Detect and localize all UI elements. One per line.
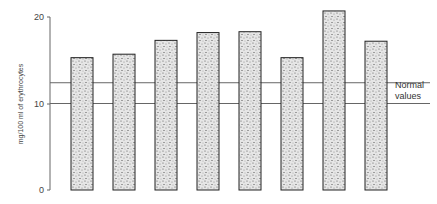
- bar-4: [197, 33, 219, 190]
- y-axis-label: mg/100 ml of erythrocytes: [17, 63, 25, 144]
- tick-10: 10: [34, 99, 44, 109]
- tick-20: 20: [34, 12, 44, 22]
- normal-values-annotation: Normal values: [395, 80, 424, 102]
- tick-0: 0: [39, 185, 44, 195]
- bars: [71, 11, 387, 190]
- bar-6: [281, 58, 303, 190]
- y-axis: [47, 17, 50, 190]
- note-line-2: values: [395, 91, 424, 102]
- bar-8: [365, 41, 387, 190]
- bar-3: [155, 40, 177, 190]
- bar-2: [113, 54, 135, 190]
- note-line-1: Normal: [395, 80, 424, 91]
- bar-5: [239, 32, 261, 190]
- bar-chart: 20 10 0 mg/100 ml of erythrocytes: [0, 0, 437, 204]
- bar-7: [323, 11, 345, 190]
- bar-1: [71, 58, 93, 190]
